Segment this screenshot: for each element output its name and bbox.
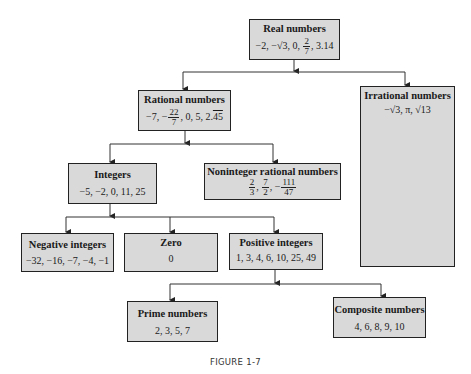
- node-title: Negative integers: [22, 239, 113, 251]
- node-rational-numbers: Rational numbers −7, −227, 0, 5, 2.45: [138, 90, 231, 131]
- node-title: Positive integers: [230, 237, 322, 249]
- node-title: Noninteger rational numbers: [205, 166, 340, 178]
- values-text: −2, −√3, 0,: [256, 40, 300, 51]
- fraction: 11147: [281, 178, 296, 197]
- node-examples: 23, 72, −11147: [205, 178, 340, 197]
- node-title: Rational numbers: [139, 94, 230, 106]
- node-irrational-numbers: Irrational numbers −√3, π, √13: [360, 86, 455, 267]
- node-examples: 2, 3, 5, 7: [128, 325, 217, 337]
- values-text: , 3.14: [311, 40, 334, 51]
- separator: , −: [270, 181, 281, 192]
- node-title: Zero: [125, 237, 217, 249]
- node-real-numbers: Real numbers −2, −√3, 0, 27, 3.14: [249, 19, 340, 60]
- values-text: −7, −: [146, 111, 167, 122]
- fraction: 72: [262, 178, 269, 197]
- node-title: Irrational numbers: [361, 90, 454, 102]
- denominator: 7: [168, 118, 179, 127]
- node-integers: Integers −5, −2, 0, 11, 25: [68, 163, 157, 204]
- values-text: , 0, 5, 2.: [180, 111, 213, 122]
- node-title: Composite numbers: [334, 304, 425, 316]
- node-prime-numbers: Prime numbers 2, 3, 5, 7: [127, 301, 218, 342]
- fraction: 23: [249, 178, 256, 197]
- node-examples: 4, 6, 8, 9, 10: [334, 321, 425, 333]
- node-examples: −7, −227, 0, 5, 2.45: [139, 108, 230, 127]
- denominator: 47: [281, 188, 296, 197]
- node-examples: −5, −2, 0, 11, 25: [69, 186, 156, 198]
- denominator: 3: [249, 188, 256, 197]
- repeating-digits: 45: [213, 111, 223, 122]
- node-negative-integers: Negative integers −32, −16, −7, −4, −1: [21, 233, 114, 272]
- node-positive-integers: Positive integers 1, 3, 4, 6, 10, 25, 49: [229, 233, 323, 270]
- node-title: Integers: [69, 169, 156, 181]
- node-examples: −32, −16, −7, −4, −1: [22, 255, 113, 267]
- denominator: 2: [262, 188, 269, 197]
- node-examples: 1, 3, 4, 6, 10, 25, 49: [230, 252, 322, 264]
- node-title: Prime numbers: [128, 308, 217, 320]
- node-composite-numbers: Composite numbers 4, 6, 8, 9, 10: [333, 297, 426, 338]
- node-examples: −√3, π, √13: [361, 104, 454, 116]
- fraction: 27: [303, 37, 310, 56]
- figure-caption: FIGURE 1-7: [0, 357, 471, 367]
- node-examples: −2, −√3, 0, 27, 3.14: [250, 37, 339, 56]
- fraction: 227: [168, 108, 179, 127]
- denominator: 7: [303, 47, 310, 56]
- node-title: Real numbers: [250, 23, 339, 35]
- node-examples: 0: [125, 253, 217, 265]
- node-noninteger-rational-numbers: Noninteger rational numbers 23, 72, −111…: [204, 163, 341, 200]
- separator: ,: [256, 181, 259, 192]
- node-zero: Zero 0: [124, 233, 218, 272]
